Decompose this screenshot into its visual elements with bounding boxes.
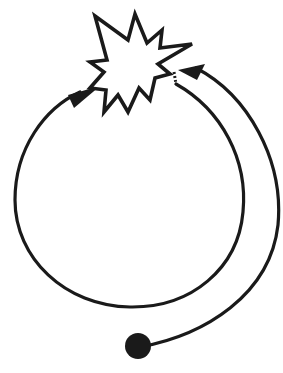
incoming-arrowhead-icon <box>178 64 205 80</box>
diagram-svg <box>0 0 283 373</box>
loop-circle-path <box>15 84 244 307</box>
loop-dotted-start <box>174 72 176 84</box>
diagram-canvas <box>0 0 283 373</box>
start-dot <box>125 333 151 359</box>
explosion-burst-icon <box>90 14 192 112</box>
